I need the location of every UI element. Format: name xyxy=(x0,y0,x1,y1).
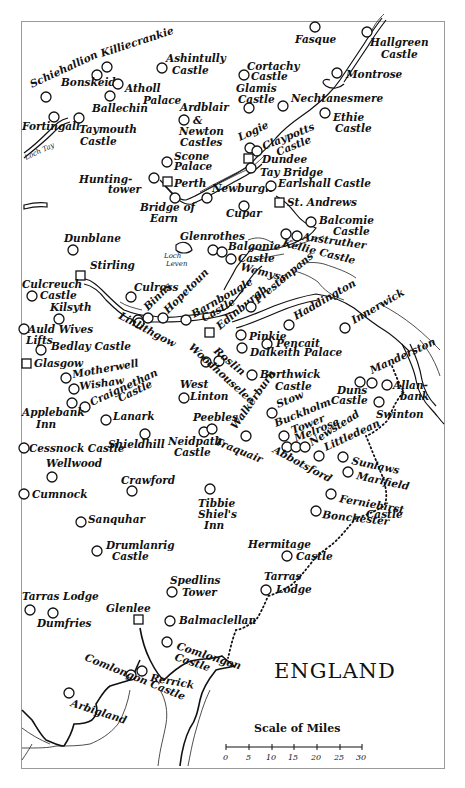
place-marker[interactable] xyxy=(76,517,86,527)
place-marker[interactable] xyxy=(278,101,288,111)
place-label: Castle xyxy=(296,550,333,562)
place-marker[interactable] xyxy=(101,415,111,425)
place-marker[interactable] xyxy=(246,302,256,312)
place-marker[interactable] xyxy=(68,245,78,255)
place-label: Balmaclellan xyxy=(178,614,256,626)
place-marker[interactable] xyxy=(19,489,29,499)
place-marker[interactable] xyxy=(179,393,189,403)
place-label: Kilsyth xyxy=(49,301,92,313)
place-marker[interactable] xyxy=(314,451,324,461)
place-label: Fortingall xyxy=(21,120,80,132)
place-marker[interactable] xyxy=(382,380,392,390)
place-marker[interactable] xyxy=(338,452,348,462)
town-marker[interactable] xyxy=(134,615,143,624)
place-label: Castles xyxy=(180,136,223,148)
place-marker[interactable] xyxy=(208,245,218,255)
place-marker[interactable] xyxy=(367,378,377,388)
place-label: Manderston xyxy=(367,335,437,376)
place-marker[interactable] xyxy=(300,442,310,452)
place-marker[interactable] xyxy=(126,292,136,302)
place-marker[interactable] xyxy=(113,79,123,89)
place-marker[interactable] xyxy=(306,217,316,227)
town-marker[interactable] xyxy=(163,177,172,186)
place-label: Castle xyxy=(238,93,275,105)
place-marker[interactable] xyxy=(19,443,29,453)
place-marker[interactable] xyxy=(157,63,167,73)
place-marker[interactable] xyxy=(102,62,112,72)
place-marker[interactable] xyxy=(92,546,102,556)
place-marker[interactable] xyxy=(332,68,342,78)
place-marker[interactable] xyxy=(241,431,251,441)
town-marker[interactable] xyxy=(244,154,253,163)
place-marker[interactable] xyxy=(167,587,177,597)
place-label: Lifts xyxy=(25,334,53,346)
place-marker[interactable] xyxy=(284,320,294,330)
place-marker[interactable] xyxy=(205,484,215,494)
place-marker[interactable] xyxy=(61,373,71,383)
place-marker[interactable] xyxy=(310,22,320,32)
places-layer: Schiehallion Killiecrankie Bonskeid Atho… xyxy=(19,22,437,726)
place-label: Castle xyxy=(80,135,117,147)
place-marker[interactable] xyxy=(292,231,302,241)
place-marker[interactable] xyxy=(320,108,330,118)
place-label: Ballechin xyxy=(91,102,148,114)
place-marker[interactable] xyxy=(279,431,289,441)
place-marker[interactable] xyxy=(27,291,37,301)
place-label: Crawford xyxy=(121,474,176,486)
place-marker[interactable] xyxy=(105,91,115,101)
place-marker[interactable] xyxy=(69,384,79,394)
town-marker[interactable] xyxy=(22,359,31,368)
place-label: Linton xyxy=(189,390,229,402)
town-marker[interactable] xyxy=(275,198,284,207)
place-marker[interactable] xyxy=(226,254,236,264)
place-marker[interactable] xyxy=(179,115,189,125)
place-marker[interactable] xyxy=(343,467,353,477)
place-label: Bonskeid xyxy=(60,76,116,88)
place-marker[interactable] xyxy=(266,181,276,191)
place-label: Nechtanesmere xyxy=(290,92,384,104)
place-marker[interactable] xyxy=(162,157,172,167)
place-label: Stirling xyxy=(90,259,135,271)
place-marker[interactable] xyxy=(282,551,292,561)
place-label: Castle xyxy=(251,70,288,82)
place-marker[interactable] xyxy=(340,323,350,333)
place-label: Castle xyxy=(112,550,149,562)
place-marker[interactable] xyxy=(207,424,217,434)
place-label: Castle xyxy=(40,289,77,301)
scale-tick: 15 xyxy=(288,753,298,762)
place-marker[interactable] xyxy=(326,489,336,499)
place-marker[interactable] xyxy=(137,666,147,676)
place-marker[interactable] xyxy=(217,247,227,257)
place-marker[interactable] xyxy=(41,92,51,102)
place-marker[interactable] xyxy=(236,330,246,340)
place-label: Castle xyxy=(174,446,211,458)
place-marker[interactable] xyxy=(261,585,271,595)
place-marker[interactable] xyxy=(237,343,247,353)
place-marker[interactable] xyxy=(36,345,46,355)
place-marker[interactable] xyxy=(247,370,257,380)
place-marker[interactable] xyxy=(158,313,168,323)
place-label: Balgonie xyxy=(227,240,281,252)
place-label: Dalkeith Palace xyxy=(249,346,343,358)
place-marker[interactable] xyxy=(162,637,172,647)
place-marker[interactable] xyxy=(74,113,84,123)
place-label: St. Andrews xyxy=(287,196,357,208)
scale-bar: Scale of Miles 0 5 10 15 20 25 30 xyxy=(223,722,366,762)
place-label: Dundee xyxy=(261,153,307,165)
scale-tick: 25 xyxy=(333,753,344,762)
place-marker[interactable] xyxy=(202,193,212,203)
place-label: Tarras Lodge xyxy=(22,590,99,602)
place-marker[interactable] xyxy=(47,472,57,482)
place-label: Dumfries xyxy=(36,617,92,629)
place-marker[interactable] xyxy=(181,315,191,325)
place-marker[interactable] xyxy=(127,486,137,496)
place-marker[interactable] xyxy=(311,506,321,516)
place-marker[interactable] xyxy=(25,605,35,615)
place-label: Ardblair xyxy=(179,101,230,113)
place-label: Glenlee xyxy=(106,602,151,614)
place-marker[interactable] xyxy=(374,397,384,407)
place-marker[interactable] xyxy=(149,173,159,183)
town-marker[interactable] xyxy=(205,328,214,337)
place-marker[interactable] xyxy=(246,163,256,173)
place-marker[interactable] xyxy=(165,616,175,626)
